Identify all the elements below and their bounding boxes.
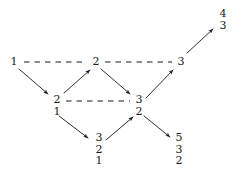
node-label-part: 3	[96, 132, 103, 144]
node-label-part: 4	[220, 8, 227, 20]
node-label-part: 1	[54, 105, 61, 117]
arrow-2-to-32	[101, 69, 130, 94]
node-label-part: 1	[96, 155, 103, 167]
node-label-part: 1	[11, 56, 18, 68]
arrow-3-to-43	[187, 29, 213, 53]
node-4-3: 43	[220, 8, 227, 31]
node-label-part: 5	[176, 132, 183, 144]
node-label-part: 3	[136, 94, 143, 106]
node-3-2-1: 321	[96, 132, 103, 167]
arrow-1-to-21	[19, 69, 48, 94]
node-label-part: 3	[178, 56, 185, 68]
node-label-part: 3	[220, 19, 227, 31]
node-2-1: 21	[54, 94, 61, 117]
node-3: 3	[178, 56, 185, 68]
node-3-2: 32	[136, 94, 143, 117]
arrow-32-to-532	[144, 116, 170, 137]
node-5-3-2: 532	[176, 132, 183, 167]
arrow-21-to-321	[59, 116, 88, 138]
node-2: 2	[93, 56, 100, 68]
node-label-part: 2	[54, 94, 61, 106]
arrow-21-to-2	[64, 70, 90, 93]
arrow-32-to-3	[146, 70, 173, 98]
diagram-canvas: 123213232153243	[0, 0, 238, 176]
node-label-part: 2	[136, 105, 143, 117]
arrow-321-to-32	[106, 117, 133, 140]
node-label-part: 2	[93, 56, 100, 68]
edge-layer	[0, 0, 238, 176]
node-1: 1	[11, 56, 18, 68]
node-label-part: 2	[176, 155, 183, 167]
